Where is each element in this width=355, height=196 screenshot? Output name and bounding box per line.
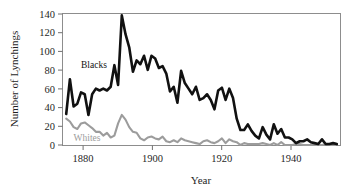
- y-tick-label-140: 140: [39, 9, 55, 20]
- x-tick-label-1920: 1920: [211, 153, 232, 164]
- series-label-whites: Whites: [74, 133, 101, 143]
- x-tick-label-1880: 1880: [73, 153, 94, 164]
- y-tick-label-0: 0: [50, 140, 55, 151]
- y-tick-label-20: 20: [45, 121, 56, 132]
- y-tick-label-100: 100: [39, 46, 55, 57]
- x-tick-label-1900: 1900: [142, 153, 163, 164]
- y-tick-label-40: 40: [45, 102, 56, 113]
- y-tick-label-60: 60: [45, 84, 56, 95]
- y-axis-title: Number of Lynchings: [8, 31, 20, 128]
- x-axis-title: Year: [191, 174, 212, 186]
- x-tick-label-1940: 1940: [281, 153, 302, 164]
- chart-canvas: 140 120 100 80 60 40 20 0 1880 1900 1920…: [0, 0, 355, 196]
- series-label-blacks: Blacks: [81, 60, 107, 70]
- y-tick-label-80: 80: [45, 65, 56, 76]
- lynchings-line-chart: 140 120 100 80 60 40 20 0 1880 1900 1920…: [0, 0, 355, 196]
- y-tick-label-120: 120: [39, 27, 55, 38]
